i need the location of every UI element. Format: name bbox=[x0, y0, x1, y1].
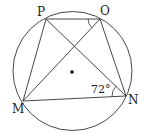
angle-arc-O bbox=[88, 19, 92, 28]
geometry-diagram: P O M N 72° bbox=[0, 0, 144, 133]
center-dot bbox=[70, 70, 74, 74]
label-O: O bbox=[100, 4, 110, 18]
segment-MN bbox=[23, 96, 126, 101]
label-P: P bbox=[37, 5, 45, 19]
angle-arc-N bbox=[112, 86, 116, 96]
segment-PN bbox=[46, 19, 126, 96]
angle-label-N: 72° bbox=[91, 83, 111, 96]
label-N: N bbox=[128, 93, 139, 107]
label-M: M bbox=[12, 102, 24, 116]
